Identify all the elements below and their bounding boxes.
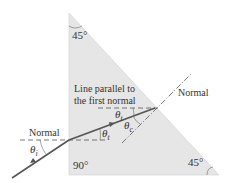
subscript-t: t — [107, 133, 109, 142]
theta-i-label: θi — [30, 144, 38, 158]
theta-c-label: θc — [124, 120, 133, 134]
normal-label-right: Normal — [178, 88, 209, 98]
normal-label-left: Normal — [29, 128, 60, 138]
theta-t-second-label: θt — [115, 109, 123, 123]
subscript-t: t — [120, 114, 122, 123]
parallel-line-label-2: the first normal — [74, 96, 136, 106]
theta-t-entry-label: θt — [102, 128, 110, 142]
prism-diagram: 45° 90° 45° Normal Normal Line parallel … — [0, 0, 228, 183]
angle-label-bottom-left: 90° — [73, 160, 88, 171]
subscript-c: c — [129, 125, 132, 134]
parallel-line-label-1: Line parallel to — [74, 84, 135, 94]
subscript-i: i — [35, 149, 37, 158]
incident-ray — [12, 140, 69, 178]
angle-label-bottom-right: 45° — [188, 157, 203, 168]
angle-label-top: 45° — [72, 30, 87, 41]
angle-arc-theta-i — [40, 140, 47, 155]
